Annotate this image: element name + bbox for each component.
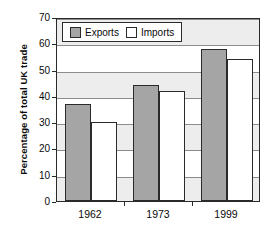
legend-item-exports: Exports bbox=[70, 27, 119, 38]
legend-item-imports: Imports bbox=[126, 27, 174, 38]
bar-chart-figure: Percentage of total UK trade 01020304050… bbox=[0, 0, 276, 232]
gridline bbox=[57, 45, 259, 46]
x-tick-label-1962: 1962 bbox=[60, 208, 120, 220]
y-tick-label: 10 bbox=[24, 171, 50, 181]
y-tick-label: 40 bbox=[24, 92, 50, 102]
y-tick-label: 70 bbox=[24, 13, 50, 23]
y-tick-label: 20 bbox=[24, 144, 50, 154]
chart-legend: ExportsImports bbox=[62, 22, 182, 42]
legend-label: Exports bbox=[85, 27, 119, 38]
y-tick-mark bbox=[52, 202, 56, 203]
exports-swatch bbox=[70, 27, 81, 38]
x-tick-label-1999: 1999 bbox=[196, 208, 256, 220]
plot-area bbox=[56, 18, 260, 202]
imports-swatch bbox=[126, 27, 137, 38]
bar-exports-1962 bbox=[65, 104, 91, 201]
bar-exports-1973 bbox=[133, 85, 159, 201]
bar-exports-1999 bbox=[201, 49, 227, 201]
y-tick-label: 60 bbox=[24, 39, 50, 49]
y-axis-title: Percentage of total UK trade bbox=[18, 25, 29, 195]
y-tick-label: 0 bbox=[24, 197, 50, 207]
x-tick-mark bbox=[192, 202, 193, 206]
bar-imports-1973 bbox=[159, 91, 185, 201]
y-tick-label: 50 bbox=[24, 66, 50, 76]
bar-imports-1962 bbox=[91, 122, 117, 201]
bar-imports-1999 bbox=[227, 59, 253, 201]
y-tick-label: 30 bbox=[24, 118, 50, 128]
x-tick-label-1973: 1973 bbox=[128, 208, 188, 220]
gridline bbox=[57, 19, 259, 20]
x-tick-mark bbox=[124, 202, 125, 206]
legend-label: Imports bbox=[141, 27, 174, 38]
